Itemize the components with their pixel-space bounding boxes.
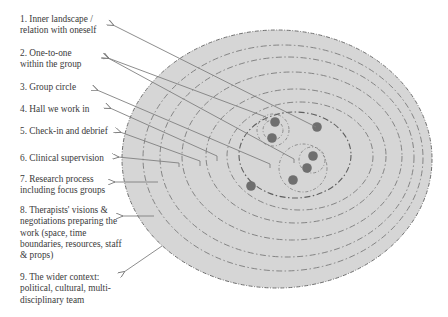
person-dot [270,117,280,127]
person-dot [312,122,322,132]
nested-contexts-diagram [0,0,448,317]
arrow-wider-context [124,246,162,272]
person-dot [267,133,277,143]
person-dot [302,163,312,173]
person-dot [308,151,318,161]
person-dot [288,175,298,185]
person-dot [246,181,256,191]
